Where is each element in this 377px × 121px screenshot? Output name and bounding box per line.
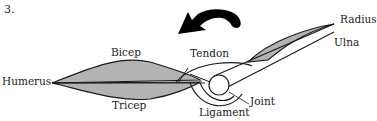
label-bicep: Bicep — [111, 46, 141, 58]
label-ulna: Ulna — [334, 36, 359, 48]
label-radius: Radius — [340, 13, 377, 25]
label-ligament: Ligament — [199, 106, 249, 118]
label-humerus: Humerus — [2, 75, 51, 87]
label-tricep: Tricep — [112, 99, 146, 111]
forearm-bones — [214, 24, 334, 90]
rotation-arrow-icon — [178, 9, 241, 34]
bicep-tricep-muscle — [52, 60, 210, 99]
joint-circle — [209, 75, 229, 95]
label-joint: Joint — [250, 95, 275, 107]
label-tendon: Tendon — [190, 47, 229, 59]
